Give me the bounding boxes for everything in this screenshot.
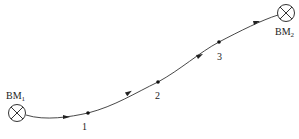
turning-point-2: [156, 80, 160, 84]
arrow-icon: [196, 54, 203, 59]
route-line: [26, 15, 278, 118]
benchmark-bm2-label: BM2: [275, 27, 294, 39]
turning-point-3: [217, 40, 221, 44]
leveling-route-diagram: [0, 0, 299, 139]
benchmark-bm1-icon: [9, 105, 26, 122]
benchmark-bm1-label: BM1: [6, 91, 25, 103]
arrow-icon: [253, 21, 260, 25]
turning-point-2-label: 2: [155, 91, 160, 101]
turning-point-1-label: 1: [82, 122, 87, 132]
turning-point-3-label: 3: [217, 52, 222, 62]
benchmark-bm2-icon: [278, 5, 295, 22]
arrow-icon: [63, 115, 70, 119]
turning-point-1: [86, 111, 90, 115]
